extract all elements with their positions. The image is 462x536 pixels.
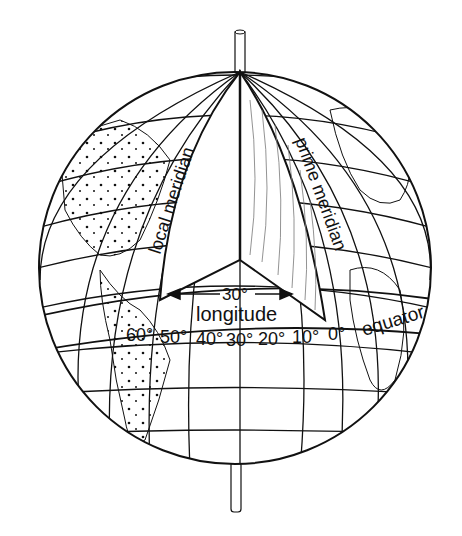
tick-50: 50° [160, 327, 187, 347]
tick-60: 60° [126, 325, 153, 345]
globe-diagram: local meridian prime meridian 30° longit… [0, 0, 462, 536]
angle-label: 30° [222, 285, 248, 304]
tick-0: 0° [328, 324, 345, 344]
tick-30: 30° [226, 330, 253, 350]
tick-20: 20° [258, 329, 285, 349]
tick-40: 40° [196, 329, 223, 349]
tick-10: 10° [292, 327, 319, 347]
longitude-label: longitude [196, 303, 277, 325]
axis-rod-bottom [231, 462, 241, 512]
